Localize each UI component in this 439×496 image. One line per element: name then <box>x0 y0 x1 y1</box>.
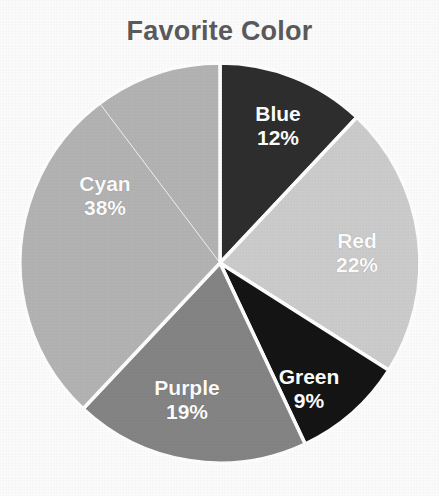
pie-label-cyan: Cyan38% <box>79 172 130 219</box>
pie-label-name: Green <box>279 365 340 389</box>
pie-label-name: Purple <box>154 376 219 400</box>
pie-label-name: Blue <box>255 102 301 126</box>
pie-chart-figure: Favorite Color Blue12%Red22%Green9%Purpl… <box>0 0 439 496</box>
pie-label-name: Cyan <box>79 172 130 196</box>
pie-label-red: Red22% <box>336 229 378 276</box>
pie-label-percent: 38% <box>79 196 130 220</box>
pie-label-percent: 9% <box>279 389 340 413</box>
pie-label-green: Green9% <box>279 365 340 412</box>
pie-label-percent: 19% <box>154 400 219 424</box>
pie-label-name: Red <box>336 229 378 253</box>
pie-label-purple: Purple19% <box>154 376 219 423</box>
pie-label-percent: 12% <box>255 126 301 150</box>
pie-label-percent: 22% <box>336 253 378 277</box>
pie-label-blue: Blue12% <box>255 102 301 149</box>
